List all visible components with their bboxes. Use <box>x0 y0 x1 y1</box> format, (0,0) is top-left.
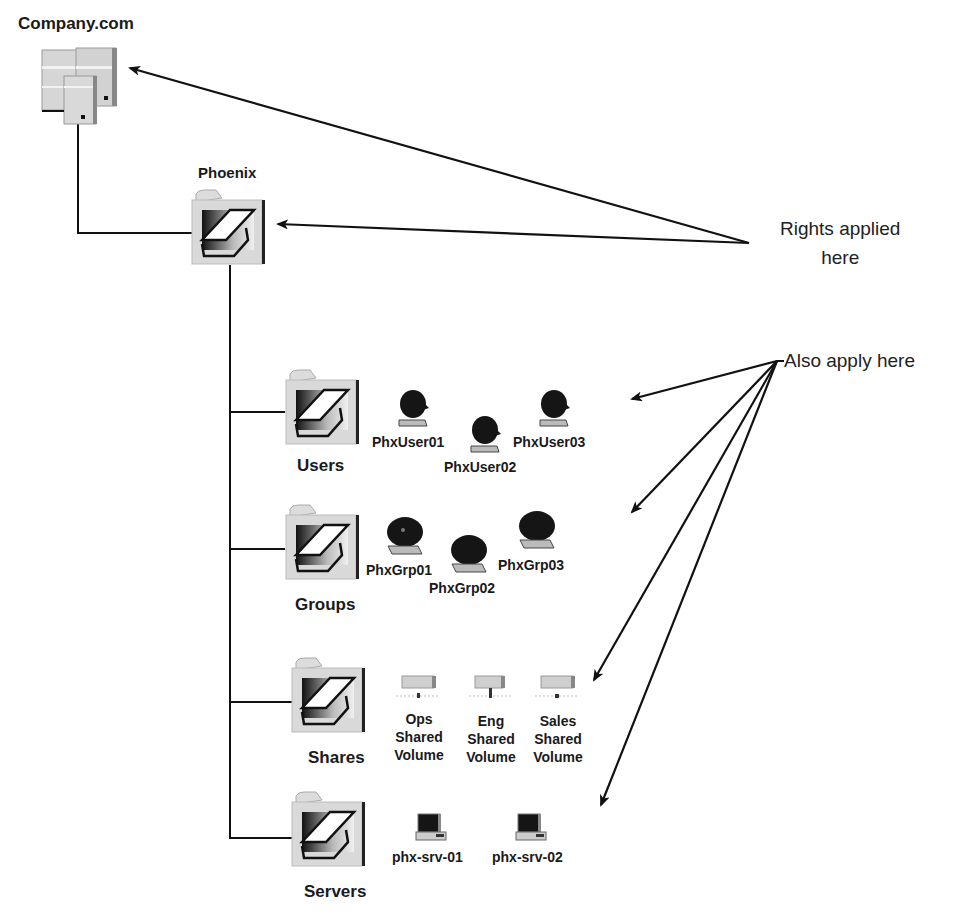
group-icon[interactable] <box>516 508 558 550</box>
servers-folder-icon[interactable] <box>290 790 368 870</box>
container-folder-icon[interactable] <box>190 188 268 268</box>
server-label: phx-srv-01 <box>392 849 463 865</box>
user-label: PhxUser01 <box>372 434 444 450</box>
group-label: PhxGrp03 <box>498 557 564 573</box>
ou-label: Phoenix <box>198 164 256 181</box>
shares-label: Shares <box>308 748 365 768</box>
rights-note-line2: here <box>780 243 900 272</box>
user-icon[interactable] <box>467 414 503 454</box>
users-label: Users <box>297 456 344 476</box>
volume-label: Eng Shared Volume <box>463 712 519 766</box>
servers-label: Servers <box>304 882 366 902</box>
rights-applied-note: Rights applied here <box>780 214 900 272</box>
group-label: PhxGrp01 <box>366 562 432 578</box>
user-icon[interactable] <box>536 388 572 428</box>
user-label: PhxUser03 <box>513 434 585 450</box>
server-cluster-icon[interactable] <box>40 46 120 126</box>
rights-note-line1: Rights applied <box>780 214 900 243</box>
shared-volume-icon[interactable] <box>533 674 581 702</box>
computer-icon[interactable] <box>514 812 548 842</box>
shared-volume-icon[interactable] <box>467 674 515 702</box>
also-apply-note: Also apply here <box>784 346 915 375</box>
group-icon[interactable] <box>384 514 426 556</box>
groups-folder-icon[interactable] <box>284 503 362 583</box>
shares-folder-icon[interactable] <box>290 656 368 736</box>
users-folder-icon[interactable] <box>284 368 362 448</box>
volume-label: Ops Shared Volume <box>394 710 444 764</box>
user-label: PhxUser02 <box>444 459 516 475</box>
server-label: phx-srv-02 <box>492 849 563 865</box>
group-label: PhxGrp02 <box>429 580 495 596</box>
group-icon[interactable] <box>448 532 490 574</box>
computer-icon[interactable] <box>414 812 448 842</box>
shared-volume-icon[interactable] <box>394 674 442 702</box>
volume-label: Sales Shared Volume <box>528 712 588 766</box>
root-label: Company.com <box>18 14 134 34</box>
groups-label: Groups <box>295 595 355 615</box>
user-icon[interactable] <box>395 388 431 428</box>
